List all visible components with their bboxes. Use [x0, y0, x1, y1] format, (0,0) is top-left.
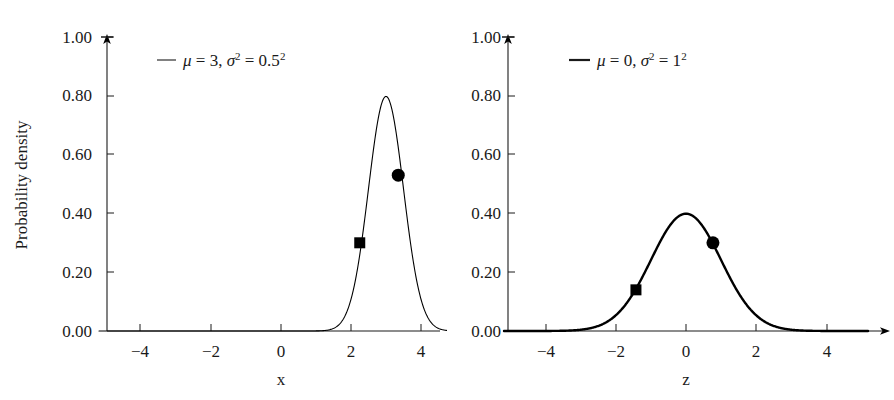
y-tick-label: 1.00: [62, 28, 92, 47]
legend-mu-equals: = 3,: [192, 51, 227, 70]
legend-sigma-equals: = 1: [655, 51, 682, 70]
legend: μ = 3, σ2 = 0.52: [157, 50, 285, 70]
y-tick-label: 0.00: [471, 322, 501, 341]
x-tick-label: −4: [131, 342, 150, 361]
x-axis: [508, 324, 890, 335]
figure-container: Probability density 1.00 0.80 0.60 0.40 …: [0, 0, 894, 400]
y-axis: [101, 34, 114, 331]
chart-panel-left: Probability density 1.00 0.80 0.60 0.40 …: [0, 0, 447, 400]
y-tick-label: 0.80: [62, 86, 92, 105]
x-tick-label: 2: [347, 342, 356, 361]
legend: μ = 0, σ2 = 12: [569, 50, 687, 70]
x-axis: [107, 324, 440, 331]
legend-label: μ = 0, σ2 = 12: [596, 50, 687, 70]
square-marker: [354, 237, 365, 248]
legend-mu-symbol: μ: [182, 51, 192, 70]
square-marker: [630, 284, 641, 295]
x-tick-label: 0: [277, 342, 286, 361]
x-tick-label: 4: [823, 342, 832, 361]
x-tick-label: 2: [752, 342, 761, 361]
y-tick-label: 0.00: [62, 322, 92, 341]
legend-variance-exponent: 2: [280, 50, 286, 62]
y-tick-label: 0.40: [471, 204, 501, 223]
chart-svg-right: 1.00 0.80 0.60 0.40 0.20 0.00: [447, 0, 894, 400]
y-axis-title: Probability density: [12, 120, 31, 249]
y-tick-label: 0.20: [62, 263, 92, 282]
density-curve: [504, 214, 868, 331]
legend-mu-symbol: μ: [596, 51, 606, 70]
x-axis-title: x: [277, 370, 286, 389]
legend-mu-equals: = 0,: [606, 51, 641, 70]
x-tick-label: −2: [202, 342, 220, 361]
density-curve: [99, 96, 447, 331]
circle-marker: [706, 236, 719, 249]
y-tick-label: 0.80: [471, 86, 501, 105]
y-tick-label: 1.00: [471, 28, 501, 47]
y-tick-label: 0.60: [471, 145, 501, 164]
legend-label: μ = 3, σ2 = 0.52: [182, 50, 285, 70]
y-tick-label: 0.60: [62, 145, 92, 164]
chart-svg-left: Probability density 1.00 0.80 0.60 0.40 …: [0, 0, 447, 400]
x-axis-title: z: [682, 370, 690, 389]
x-tick-label: 0: [682, 342, 691, 361]
x-tick-label: 4: [417, 342, 426, 361]
chart-panel-right: 1.00 0.80 0.60 0.40 0.20 0.00: [447, 0, 894, 400]
y-axis: [502, 34, 515, 331]
circle-marker: [392, 169, 405, 182]
x-tick-label: −2: [607, 342, 625, 361]
y-tick-label: 0.40: [62, 204, 92, 223]
x-tick-label: −4: [537, 342, 556, 361]
legend-sigma-equals: = 0.5: [241, 51, 280, 70]
y-tick-label: 0.20: [471, 263, 501, 282]
legend-variance-exponent: 2: [681, 50, 687, 62]
